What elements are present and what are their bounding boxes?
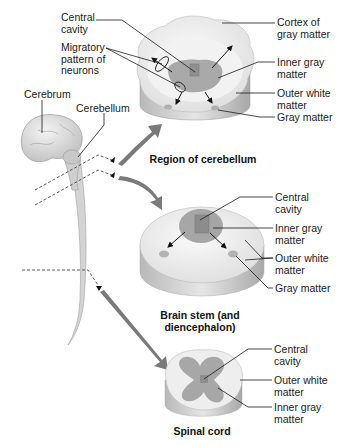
label-cortex-gray-matter: Cortex of gray matter [277,17,330,40]
label-cerebellum: Cerebellum [76,103,130,115]
label-central-cavity-top: Central cavity [61,12,95,35]
label-inner-gray-matter-2: Inner gray matter [275,223,322,246]
label-outer-white-matter-2: Outer white matter [275,253,329,276]
label-outer-white-matter-1: Outer white matter [277,88,331,111]
central-cavity [190,64,199,76]
label-gray-matter-2: Gray matter [275,283,330,295]
label-inner-gray-matter-3: Inner gray matter [274,402,321,425]
label-cerebrum: Cerebrum [24,89,71,101]
label-gray-matter-1: Gray matter [277,112,332,124]
label-central-cavity-2: Central cavity [275,192,309,215]
caption-brain-stem: Brain stem (and diencephalon) [150,309,250,333]
central-cavity [195,215,209,233]
caption-cerebellum: Region of cerebellum [138,153,268,165]
brain-illustration [21,100,115,345]
arrow-to-brainstem [118,176,162,210]
label-inner-gray-matter-1: Inner gray matter [277,57,324,80]
label-outer-white-matter-3: Outer white matter [274,375,328,398]
label-central-cavity-3: Central cavity [274,344,308,367]
brainstem-cylinder [140,197,273,296]
label-migratory-pattern: Migratory pattern of neurons [61,42,105,77]
spinal-cord-cylinder [165,349,272,416]
caption-spinal-cord: Spinal cord [162,425,242,437]
